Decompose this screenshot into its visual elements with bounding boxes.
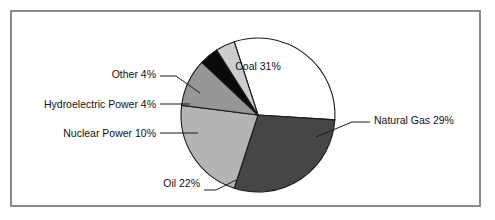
pie-chart-figure: Coal 31%Natural Gas 29%Oil 22%Nuclear Po…	[0, 0, 495, 220]
slice-label-natural-gas: Natural Gas 29%	[374, 114, 454, 126]
slice-label-hydroelectric-power: Hydroelectric Power 4%	[44, 98, 156, 110]
slice-label-coal: Coal 31%	[235, 60, 281, 72]
slice-label-nuclear-power: Nuclear Power 10%	[63, 127, 156, 139]
pie-chart-canvas: Coal 31%Natural Gas 29%Oil 22%Nuclear Po…	[0, 0, 495, 220]
slice-label-other: Other 4%	[112, 68, 156, 80]
slice-label-oil: Oil 22%	[163, 177, 200, 189]
